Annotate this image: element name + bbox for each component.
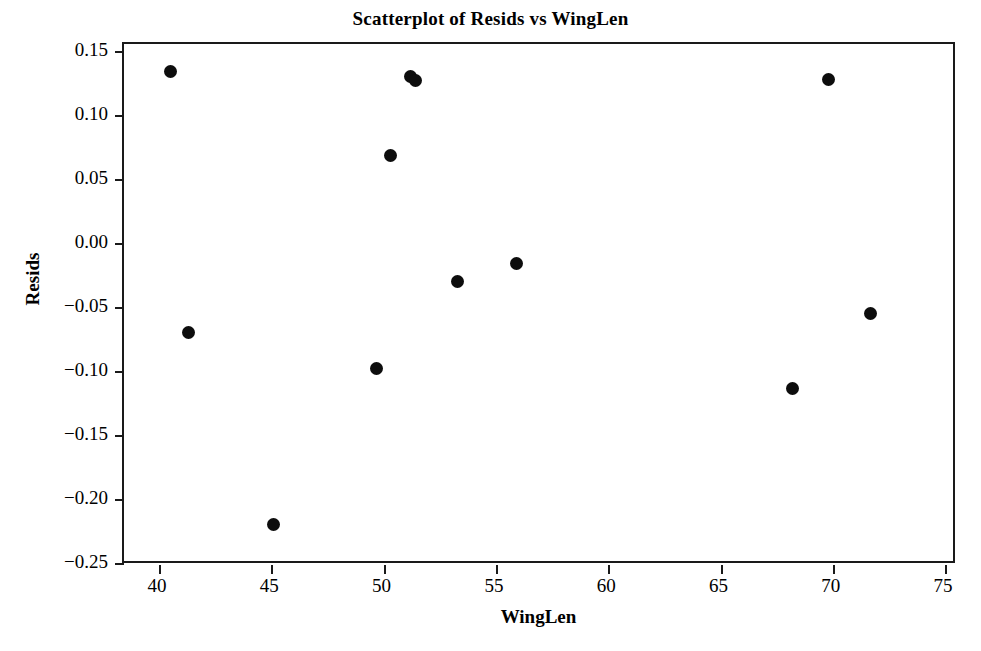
x-axis-tick — [945, 565, 947, 574]
x-axis-tick — [271, 565, 273, 574]
x-axis-tick-label: 55 — [454, 576, 534, 595]
y-axis-tick-labels: 0.150.100.050.00−0.05−0.10−0.15−0.20−0.2… — [0, 42, 981, 563]
x-axis-tick-label: 75 — [903, 576, 981, 595]
x-axis-tick-labels: 4045505560657075 — [122, 576, 955, 602]
x-axis-tick-label: 45 — [229, 576, 309, 595]
y-axis-tick-label: 0.15 — [18, 40, 108, 59]
x-axis-title: WingLen — [122, 606, 955, 628]
y-axis-tick — [115, 563, 124, 565]
y-axis-tick-label: −0.15 — [18, 424, 108, 443]
y-axis-tick-label: 0.10 — [18, 104, 108, 123]
x-axis-tick-label: 70 — [791, 576, 871, 595]
x-axis-tick — [496, 565, 498, 574]
x-axis-tick-label: 60 — [566, 576, 646, 595]
chart-title: Scatterplot of Resids vs WingLen — [0, 8, 981, 30]
x-axis-tick — [608, 565, 610, 574]
x-axis-tick — [384, 565, 386, 574]
y-axis-tick-label: −0.25 — [18, 552, 108, 571]
x-axis-tick-label: 50 — [342, 576, 422, 595]
x-axis-tick — [721, 565, 723, 574]
y-axis-tick-label: 0.05 — [18, 168, 108, 187]
scatterplot-figure: Scatterplot of Resids vs WingLen 0.150.1… — [0, 0, 981, 651]
y-axis-tick-label: −0.20 — [18, 488, 108, 507]
x-axis-tick — [833, 565, 835, 574]
y-axis-tick-label: −0.10 — [18, 360, 108, 379]
x-axis-tick — [159, 565, 161, 574]
y-axis-title: Resids — [22, 219, 44, 339]
x-axis-tick-label: 65 — [679, 576, 759, 595]
x-axis-tick-label: 40 — [117, 576, 197, 595]
